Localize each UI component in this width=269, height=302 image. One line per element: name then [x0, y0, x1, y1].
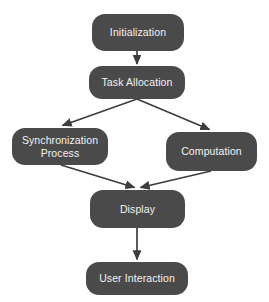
edge-task-allocation-to-synchronization-process [63, 99, 138, 126]
node-computation[interactable]: Computation [166, 132, 257, 171]
node-synchronization-process[interactable]: Synchronization Process [12, 128, 108, 165]
node-initialization[interactable]: Initialization [92, 14, 184, 51]
node-synchronization-process-label: Synchronization Process [22, 134, 98, 159]
node-display[interactable]: Display [90, 190, 185, 228]
node-initialization-label: Initialization [110, 26, 166, 38]
edge-synchronization-process-to-display [61, 165, 135, 188]
flowchart-canvas: Initialization Task Allocation Synchroni… [0, 0, 269, 302]
node-task-allocation[interactable]: Task Allocation [89, 66, 185, 99]
edge-computation-to-display [141, 171, 212, 188]
node-user-interaction[interactable]: User Interaction [86, 262, 188, 295]
edge-task-allocation-to-computation [137, 99, 210, 130]
node-computation-label: Computation [181, 145, 242, 157]
node-display-label: Display [120, 203, 155, 215]
node-user-interaction-label: User Interaction [99, 272, 175, 284]
node-task-allocation-label: Task Allocation [102, 76, 173, 88]
